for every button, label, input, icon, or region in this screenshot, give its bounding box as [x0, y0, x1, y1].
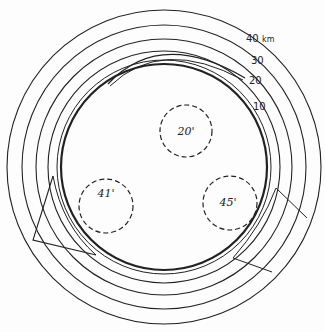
- right-feature-line-top: [276, 188, 307, 218]
- inner-rim-ring: [57, 60, 271, 274]
- main-crater-rim: [61, 64, 267, 270]
- contour-ring-40: [7, 10, 321, 324]
- contour-unit-label: km: [262, 36, 274, 44]
- crater-label-20: 20': [177, 126, 194, 137]
- crater-label-45: 45': [219, 197, 236, 208]
- diagram-canvas: [0, 0, 325, 332]
- crater-label-41: 41': [97, 188, 114, 199]
- right-feature-arc: [233, 188, 276, 258]
- contour-label-20: 20: [249, 76, 262, 86]
- contour-label-10: 10: [253, 102, 266, 112]
- crater-contour-diagram: 40 km 30 20 10 20' 41' 45': [0, 0, 325, 332]
- contour-label-30: 30: [251, 56, 264, 66]
- contour-ring-10: [48, 51, 280, 283]
- contour-ring-30: [22, 25, 306, 309]
- contour-label-40: 40: [246, 34, 259, 44]
